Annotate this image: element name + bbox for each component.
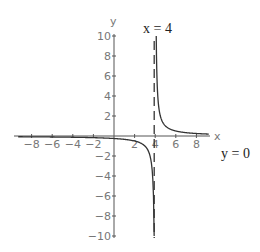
x-tick-label: 6 xyxy=(172,138,179,151)
x-tick-label: 4 xyxy=(152,138,159,151)
y-tick-label: −8 xyxy=(95,210,111,223)
x-tick-label: −6 xyxy=(44,138,60,151)
y-tick-label: 4 xyxy=(104,90,111,103)
y-axis-label: y xyxy=(110,15,117,28)
function-plot: −8−6−4−22468−10−8−6−4−2246810 y x x = 4 … xyxy=(0,0,260,252)
vertical-asymptote-label: x = 4 xyxy=(143,21,172,36)
x-tick-label: −4 xyxy=(65,138,81,151)
axes xyxy=(14,34,210,238)
x-axis-label: x xyxy=(214,130,221,143)
y-tick-label: −10 xyxy=(88,230,111,243)
y-tick-label: 8 xyxy=(104,50,111,63)
y-tick-label: −4 xyxy=(95,170,111,183)
y-tick-label: 10 xyxy=(97,30,111,43)
x-tick-label: 8 xyxy=(193,138,200,151)
y-tick-label: −6 xyxy=(95,190,111,203)
x-tick-label: −8 xyxy=(23,138,39,151)
horizontal-asymptote-label: y = 0 xyxy=(221,146,250,161)
curve-right-branch xyxy=(156,36,209,134)
y-tick-label: 2 xyxy=(104,110,111,123)
y-tick-label: −2 xyxy=(95,150,111,163)
y-tick-label: 6 xyxy=(104,70,111,83)
curve-left-branch xyxy=(18,137,154,236)
